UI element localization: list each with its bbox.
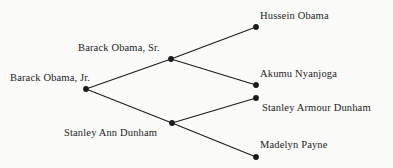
- tree-node-dot[interactable]: [253, 82, 259, 88]
- tree-edge: [86, 59, 171, 89]
- tree-node-dot[interactable]: [253, 95, 259, 101]
- node-label-hussein-obama: Hussein Obama: [260, 10, 329, 22]
- node-label-barack-obama-sr: Barack Obama, Sr.: [78, 42, 160, 54]
- tree-edge: [171, 59, 256, 85]
- family-tree-diagram: Barack Obama, Jr.Barack Obama, Sr.Stanle…: [0, 0, 393, 168]
- tree-node-dot[interactable]: [169, 120, 175, 126]
- tree-edge: [171, 27, 256, 59]
- tree-node-dot[interactable]: [168, 56, 174, 62]
- tree-edge: [86, 89, 172, 123]
- tree-edge: [172, 123, 256, 157]
- node-label-stanley-ann-dunham: Stanley Ann Dunham: [64, 127, 157, 139]
- tree-edge: [172, 98, 256, 123]
- tree-graph-canvas: [0, 0, 393, 168]
- tree-node-dot[interactable]: [253, 24, 259, 30]
- node-label-madelyn-payne: Madelyn Payne: [260, 139, 328, 151]
- tree-node-dot[interactable]: [83, 86, 89, 92]
- node-label-barack-obama-jr: Barack Obama, Jr.: [10, 72, 90, 84]
- tree-node-dot[interactable]: [253, 154, 259, 160]
- node-label-akumu-nyanjoga: Akumu Nyanjoga: [260, 68, 337, 80]
- node-label-stanley-armour-dunham: Stanley Armour Dunham: [262, 102, 371, 114]
